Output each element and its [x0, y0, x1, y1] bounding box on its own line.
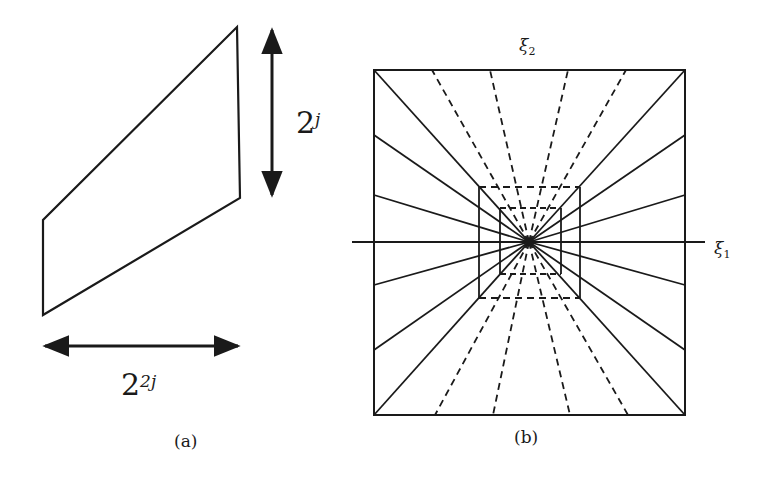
xi1-axis-label: ξ1 — [714, 239, 730, 264]
panel-b-drawing — [352, 70, 705, 415]
xi1-subscript: 1 — [723, 248, 730, 261]
xi1-symbol: ξ — [714, 238, 723, 258]
parallelogram-support — [43, 27, 240, 315]
xi2-symbol: ξ — [519, 35, 528, 55]
caption-b: (b) — [514, 428, 538, 446]
height-label: 2j — [296, 108, 320, 138]
xi2-axis-label: ξ2 — [519, 36, 535, 61]
width-label-exponent: 2j — [140, 371, 156, 391]
curvelet-figure: 2j 22j (a) ξ2 ξ1 (b) — [0, 0, 764, 478]
panel-a-drawing — [43, 27, 272, 346]
origin-point — [525, 238, 533, 246]
height-label-base: 2 — [296, 105, 315, 140]
height-label-exponent: j — [315, 109, 320, 129]
caption-a: (a) — [174, 432, 197, 450]
width-label: 22j — [121, 370, 156, 400]
xi2-subscript: 2 — [528, 45, 535, 58]
width-label-base: 2 — [121, 367, 140, 402]
figure-drawing — [0, 0, 764, 478]
